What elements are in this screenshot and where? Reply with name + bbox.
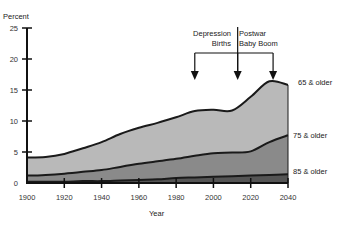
x-tick-label: 1980 [168,193,185,202]
legend-65-older: 65 & older [298,78,332,87]
x-tick-label: 2000 [205,193,222,202]
annotation-postwar-line2: Baby Boom [239,39,278,48]
y-tick-label: 5 [14,148,18,157]
x-tick-label: 1960 [131,193,148,202]
arrow-down-icon [191,71,199,80]
x-axis-title: Year [149,209,164,218]
y-axis-title: Percent [3,12,29,21]
legend-85-older: 85 & older [293,167,327,176]
x-tick-label: 2020 [242,193,259,202]
y-tick-label: 25 [10,24,18,33]
x-tick-label: 1920 [56,193,73,202]
arrow-down-icon [269,71,277,80]
y-tick-label: 10 [10,117,18,126]
y-tick-label: 20 [10,55,18,64]
x-tick-label: 1900 [19,193,36,202]
area-chart: 0510152025190019201940196019802000202020… [0,0,339,227]
arrow-down-icon [234,71,242,80]
series-areas [27,81,288,183]
legend-75-older: 75 & older [293,131,327,140]
x-tick-label: 2040 [280,193,297,202]
annotation-depression-line1: Depression [193,29,231,38]
annotation-depression-line2: Births [212,39,231,48]
annotation-postwar-line1: Postwar [239,29,266,38]
y-tick-label: 15 [10,86,18,95]
y-tick-label: 0 [14,179,18,188]
x-tick-label: 1940 [93,193,110,202]
